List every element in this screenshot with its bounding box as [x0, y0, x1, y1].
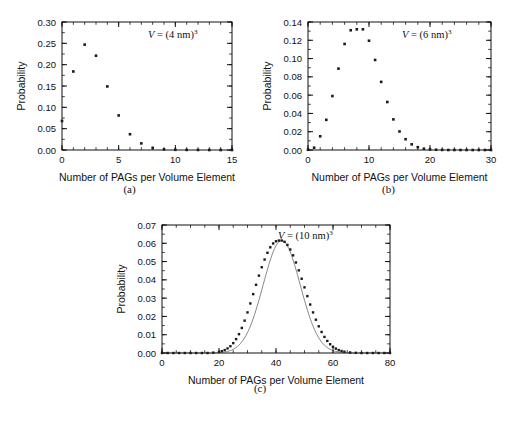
y-tick-label: 0.01 [138, 329, 157, 340]
data-point [272, 242, 274, 244]
data-point [258, 274, 260, 276]
data-point [318, 325, 320, 327]
y-tick-label: 0.08 [284, 71, 303, 82]
data-point [300, 278, 302, 280]
data-point [447, 149, 450, 152]
x-tick-label: 0 [159, 357, 164, 368]
data-point [195, 352, 197, 354]
y-tick-label: 0.04 [284, 108, 303, 119]
data-point [319, 135, 322, 138]
data-point [255, 284, 257, 286]
y-tick-label: 0.15 [38, 81, 57, 92]
data-point [252, 293, 254, 295]
data-point [389, 352, 391, 354]
data-point [313, 146, 316, 149]
data-point [178, 352, 180, 354]
figure-container: 0510150.000.050.100.150.200.250.30Number… [0, 0, 518, 422]
y-tick-label: 0.04 [138, 274, 157, 285]
y-axis-label: Probability [261, 61, 273, 111]
data-point [151, 147, 154, 150]
data-point [320, 331, 322, 333]
y-tick-label: 0.00 [38, 145, 57, 156]
y-tick-label: 0.05 [38, 123, 57, 134]
y-tick-label: 0.25 [38, 38, 57, 49]
data-point [226, 347, 228, 349]
y-tick-label: 0.06 [138, 238, 157, 249]
fit-curve [162, 241, 390, 353]
data-point [417, 146, 420, 149]
y-tick-label: 0.00 [138, 348, 157, 359]
data-point [343, 43, 346, 46]
y-tick-label: 0.30 [38, 17, 57, 28]
x-tick-label: 0 [59, 154, 64, 165]
panel-annotation: V = (10 nm)3 [278, 229, 333, 242]
panel-c-caption: (c) [100, 382, 420, 394]
x-tick-label: 0 [305, 154, 310, 165]
y-tick-label: 0.02 [138, 311, 157, 322]
data-point [368, 39, 371, 42]
y-tick-label: 0.20 [38, 59, 57, 70]
x-tick-label: 5 [116, 154, 121, 165]
panel-annotation: V = (4 nm)3 [148, 28, 198, 41]
data-point [303, 286, 305, 288]
data-point [309, 303, 311, 305]
data-point [355, 352, 357, 354]
data-point [429, 148, 432, 151]
data-point [231, 149, 234, 152]
data-point [201, 352, 203, 354]
y-tick-label: 0.06 [284, 90, 303, 101]
data-point [232, 342, 234, 344]
x-tick-label: 30 [486, 154, 497, 165]
panel-a: 0510150.000.050.100.150.200.250.30Number… [0, 0, 259, 196]
data-point [362, 28, 365, 31]
panel-b-plot: 01020300.000.020.040.060.080.100.120.14N… [259, 0, 518, 196]
data-point [356, 28, 359, 31]
data-point [360, 352, 362, 354]
data-point [295, 261, 297, 263]
data-point [386, 101, 389, 104]
data-point [374, 59, 377, 62]
x-tick-label: 40 [271, 357, 282, 368]
x-tick-label: 10 [170, 154, 181, 165]
panel-c-plot: 0204060800.000.010.020.030.040.050.060.0… [100, 205, 420, 395]
data-point [349, 29, 352, 32]
data-point [289, 248, 291, 250]
data-point [392, 118, 395, 121]
data-point [129, 133, 132, 136]
x-tick-label: 20 [214, 357, 225, 368]
data-point [377, 352, 379, 354]
data-point [441, 149, 444, 152]
data-point [106, 85, 109, 88]
data-point [185, 149, 188, 152]
data-point [465, 149, 468, 152]
data-point [246, 311, 248, 313]
y-tick-label: 0.10 [38, 102, 57, 113]
data-point [266, 252, 268, 254]
data-point [337, 67, 340, 70]
data-point [219, 149, 222, 152]
data-point [61, 120, 64, 123]
data-point [167, 352, 169, 354]
data-point [224, 349, 226, 351]
data-point [235, 338, 237, 340]
data-point [184, 352, 186, 354]
y-tick-label: 0.03 [138, 293, 157, 304]
x-axis-label: Number of PAGs per Volume Element [311, 171, 487, 183]
data-point [221, 350, 223, 352]
y-tick-label: 0.00 [284, 145, 303, 156]
x-tick-label: 10 [364, 154, 375, 165]
data-point [208, 149, 211, 152]
data-point [323, 336, 325, 338]
x-axis-label: Number of PAGs per Volume Element [59, 171, 235, 183]
data-point [163, 148, 166, 151]
data-point [218, 351, 220, 353]
x-tick-label: 80 [385, 357, 396, 368]
data-point [490, 149, 493, 152]
x-tick-label: 60 [328, 357, 339, 368]
data-point [471, 149, 474, 152]
data-point [459, 149, 462, 152]
data-point [298, 269, 300, 271]
panel-b: 01020300.000.020.040.060.080.100.120.14N… [259, 0, 518, 196]
data-point [286, 244, 288, 246]
data-point [140, 142, 143, 145]
